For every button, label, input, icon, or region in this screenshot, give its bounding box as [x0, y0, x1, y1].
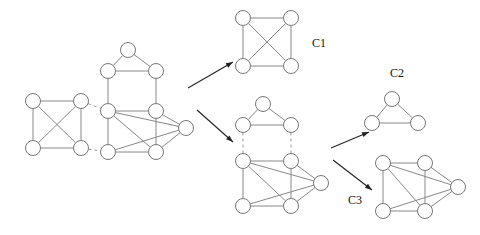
graph-node [284, 199, 299, 214]
arrow-input-to-c1 [188, 62, 233, 88]
graph-decomposition-diagram: C1C2C3 [0, 0, 480, 235]
graph-node [451, 180, 466, 195]
arrow-intermediate-to-c3-head [365, 184, 372, 190]
graph-edge [269, 109, 285, 121]
graph-edge [388, 169, 420, 206]
graph-node [236, 11, 251, 26]
graph-node [376, 156, 391, 171]
cluster-label-c3: C3 [348, 193, 362, 207]
graph-node [236, 118, 251, 133]
graph-node [236, 199, 251, 214]
cluster-label-c2: C2 [390, 66, 404, 80]
graph-edge [431, 167, 452, 182]
arrow-input-to-c1-head [226, 62, 233, 68]
graph-node [284, 11, 299, 26]
graph-node [385, 92, 400, 107]
figure-canvas: C1C2C3 [0, 0, 480, 235]
graph-edge [163, 115, 180, 125]
graph-node [236, 154, 251, 169]
cluster-label-c1: C1 [312, 36, 326, 50]
graph-node [149, 145, 164, 160]
graph-node [418, 204, 433, 219]
graph-node [101, 64, 116, 79]
graph-edge [377, 105, 387, 117]
graph-edge [398, 104, 413, 118]
graph-edge [114, 116, 151, 147]
graph-node [149, 104, 164, 119]
edges-layer [33, 18, 452, 211]
arrow-intermediate-to-c3 [333, 160, 372, 190]
arrow-input-to-intermediate [197, 110, 233, 142]
graph-node [101, 145, 116, 160]
graph-node [376, 204, 391, 219]
nodes-layer [26, 11, 466, 219]
graph-node [179, 121, 194, 136]
graph-node [284, 59, 299, 74]
graph-node [256, 97, 271, 112]
graph-edge-cut [88, 104, 101, 109]
graph-node [26, 94, 41, 109]
graph-edge [248, 109, 258, 119]
arrows-layer [188, 62, 372, 190]
graph-edge [250, 185, 314, 204]
graph-node [236, 59, 251, 74]
graph-edge [431, 191, 452, 206]
graph-edge [134, 55, 150, 67]
graph-node [74, 141, 89, 156]
graph-node [101, 104, 116, 119]
graph-node [314, 176, 329, 191]
graph-node [284, 118, 299, 133]
graph-node [26, 141, 41, 156]
graph-edge [115, 130, 179, 150]
graph-node [411, 116, 426, 131]
graph-node [74, 94, 89, 109]
graph-node [149, 64, 164, 79]
graph-edge [250, 163, 314, 181]
graph-edge [115, 113, 178, 127]
arrow-intermediate-to-c2-head [362, 132, 369, 137]
graph-node [418, 156, 433, 171]
graph-edge [113, 55, 123, 65]
graph-node [284, 154, 299, 169]
graph-node [365, 116, 380, 131]
graph-edge-cut [88, 149, 100, 151]
graph-node [121, 43, 136, 58]
